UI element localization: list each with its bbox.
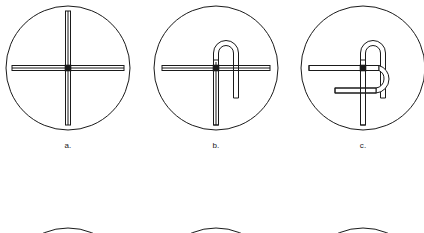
figure-page: .circ { fill: none; stroke: #1a1a1a; str…	[0, 0, 424, 233]
panel-a-center-knot	[65, 65, 71, 71]
panel-label-c: c.	[348, 141, 378, 150]
panel-b-center-knot	[213, 65, 219, 71]
panel-c-horizontal-ribbon-upper	[309, 66, 379, 71]
panel-label-a: a.	[53, 141, 83, 150]
panel-b-loop-inner-edge	[219, 46, 234, 100]
panel-c-center-knot	[360, 65, 366, 71]
panel-c-group	[301, 6, 424, 130]
knot-diagram-svg: .circ { fill: none; stroke: #1a1a1a; str…	[0, 0, 424, 233]
panel-a-group	[6, 6, 130, 130]
panel-b-group	[154, 6, 278, 130]
bottom-circle-middle	[154, 228, 278, 233]
panel-c-horizontal-ribbon-lower	[335, 88, 376, 93]
bottom-circle-right	[301, 228, 424, 233]
bottom-row-group	[6, 228, 424, 233]
panel-label-b: b.	[201, 141, 231, 150]
bottom-circle-left	[6, 228, 130, 233]
